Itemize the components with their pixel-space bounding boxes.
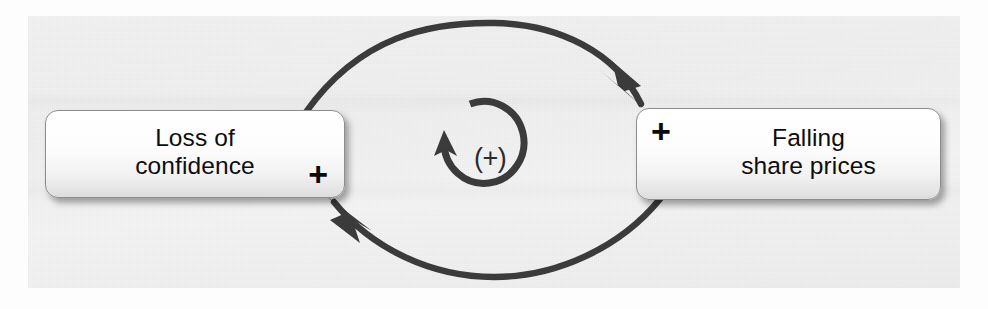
link-bottom-line — [334, 199, 660, 277]
loop-polarity-label: (+) — [474, 143, 506, 174]
node-loss-of-confidence[interactable]: Loss of confidence + — [45, 110, 345, 198]
node-falling-share-prices[interactable]: Falling share prices + — [636, 108, 941, 200]
node-falling-share-prices-polarity: + — [651, 114, 671, 148]
node-falling-share-prices-label: Falling share prices — [677, 124, 940, 181]
diagram-canvas: Loss of confidence + Falling share price… — [0, 0, 988, 309]
node-loss-of-confidence-label: Loss of confidence — [46, 124, 344, 181]
node-loss-of-confidence-polarity: + — [308, 157, 328, 191]
link-top-line — [306, 23, 641, 112]
